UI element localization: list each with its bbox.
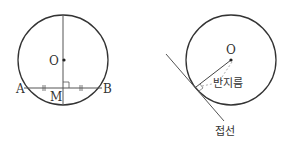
right-angle-mark [63, 82, 69, 88]
label-tangent: 접선 [215, 125, 235, 138]
right-angle-mark [199, 84, 203, 91]
center-dot [229, 58, 232, 61]
label-m: M [50, 90, 62, 104]
label-b: B [103, 82, 112, 96]
diagram-canvas: O A M B O 반지름 접선 [0, 0, 293, 149]
label-a: A [15, 82, 25, 96]
angle-dashed-pointer [202, 84, 212, 86]
chord-bisector-figure: O A M B [15, 15, 112, 105]
center-dot [62, 58, 65, 61]
label-radius: 반지름 [213, 77, 243, 90]
label-o-right: O [226, 43, 236, 57]
tangent-radius-figure: O 반지름 접선 [166, 15, 276, 138]
label-o-left: O [49, 54, 59, 68]
